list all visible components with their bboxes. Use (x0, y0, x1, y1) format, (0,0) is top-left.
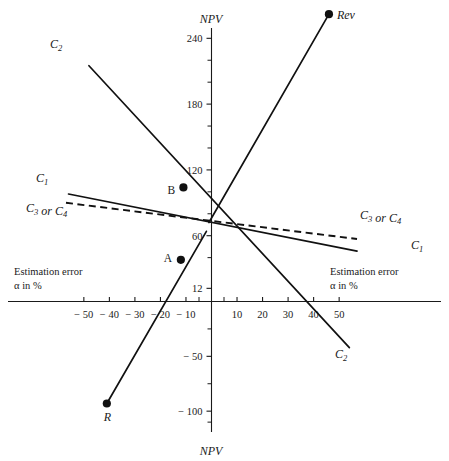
y-axis-title-top: NPV (199, 12, 224, 26)
x-axis-note-left-line2: α in % (14, 280, 42, 291)
data-point-marker (177, 256, 185, 264)
curve-label-c1-right: C1 (411, 238, 423, 254)
x-axis-tick-labels: − 50− 40− 30− 20− 101020304050 (74, 309, 344, 320)
curve-label-c2-left: C2 (50, 37, 63, 53)
x-tick-label: − 50 (74, 309, 93, 320)
annotation-label-a: A (164, 252, 173, 264)
y-axis-title-bottom: NPV (199, 444, 224, 458)
y-tick-label: 180 (187, 99, 203, 110)
x-tick-label: − 10 (176, 309, 195, 320)
data-point-marker (103, 399, 111, 407)
axes-group (8, 28, 441, 432)
y-tick-label: 240 (187, 33, 203, 44)
y-tick-label: 12 (192, 283, 203, 294)
x-tick-label: 30 (283, 309, 294, 320)
chart-canvas: − 50− 40− 30− 20− 101020304050 240180120… (0, 0, 449, 461)
data-point-marker (325, 10, 333, 18)
curve-label-c1-left: C1 (36, 171, 48, 187)
data-point-markers (103, 10, 333, 407)
series-line-rev (209, 14, 329, 222)
series-line-c1 (69, 194, 357, 251)
y-axis-tick-labels: 2401801206012− 50− 100 (178, 33, 202, 417)
x-tick-label: 50 (334, 309, 345, 320)
x-axis-note-left-line1: Estimation error (14, 266, 83, 277)
y-tick-label: − 50 (183, 351, 202, 362)
x-axis-note-right-line2: α in % (330, 280, 358, 291)
x-tick-label: − 40 (100, 309, 119, 320)
npv-sensitivity-chart: − 50− 40− 30− 20− 101020304050 240180120… (0, 0, 449, 461)
curve-label-c3c4-left: C3 or C4 (26, 201, 68, 219)
y-tick-label: − 100 (178, 406, 202, 417)
curve-label-c3c4-right: C3 or C4 (360, 208, 402, 226)
x-tick-label: − 30 (125, 309, 144, 320)
data-point-marker (179, 183, 187, 191)
x-axis-note-right-line1: Estimation error (330, 266, 399, 277)
annotation-label-b: B (167, 184, 175, 196)
annotation-label-rev: Rev (336, 8, 356, 22)
x-tick-label: 20 (257, 309, 268, 320)
x-tick-label: 10 (232, 309, 243, 320)
annotation-label-r: R (103, 410, 112, 424)
curve-label-c2-right: C2 (335, 347, 348, 363)
